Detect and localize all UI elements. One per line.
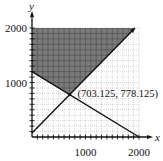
x-axis-arrow	[147, 135, 153, 139]
intersection-point	[68, 93, 71, 96]
x-tick-label: 2000	[128, 146, 151, 158]
chart: 1000200010002000 x y (703.125, 778.125)	[0, 0, 163, 161]
y-tick-label: 2000	[5, 22, 28, 34]
y-axis-label: y	[28, 0, 34, 12]
intersection-annotation: (703.125, 778.125)	[78, 88, 159, 100]
shaded-feasible-region	[32, 28, 135, 95]
x-tick-label: 1000	[75, 146, 98, 158]
x-axis-label: x	[154, 131, 160, 143]
y-tick-label: 1000	[5, 77, 28, 89]
